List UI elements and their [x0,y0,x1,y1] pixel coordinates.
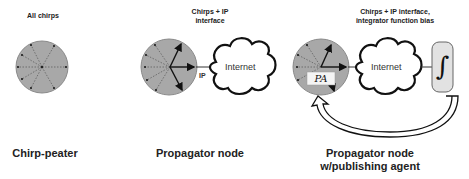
panel2-bottom-label: Propagator node [150,147,250,160]
panel3-bottom-label-line1: Propagator node [315,147,425,160]
integrator-symbol-icon: ∫ [432,50,453,82]
panel2-ip-label: IP [199,72,206,79]
chirp-peater-node [16,41,68,93]
panel1-bottom-label: Chirp-peater [5,147,85,160]
propagator-node [141,39,197,95]
panel3-bottom-label: Propagator node w/publishing agent [315,147,425,173]
panel3-bottom-label-line2: w/publishing agent [315,160,425,173]
publishing-agent-node [293,39,349,95]
internet-label-1: Internet [225,62,256,72]
feedback-arrow [312,96,458,137]
internet-label-2: Internet [371,62,402,72]
publishing-agent-label: PA [309,72,333,85]
